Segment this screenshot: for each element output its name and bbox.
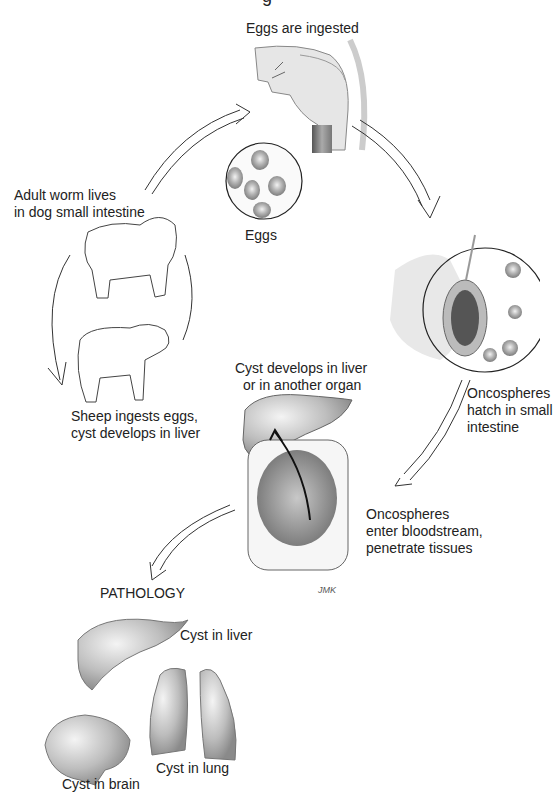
abdominal-organs-illustration [243,395,352,570]
label-line: Oncospheres [467,385,553,402]
label-oncospheres-hatch: Oncospheres hatch in small intestine [467,385,553,436]
label-line: Oncospheres [366,506,483,523]
label-cyst-liver: Cyst in liver [180,627,252,644]
title-fragment: g [262,0,272,5]
label-line: intestine [467,419,553,436]
label-line: Cyst develops in liver [235,360,367,377]
label-adult-worm: Adult worm lives in dog small intestine [14,187,145,221]
label-line: in dog small intestine [14,204,145,221]
label-line: Adult worm lives [14,187,145,204]
sheep-illustration [78,324,169,402]
label-oncospheres-enter: Oncospheres enter bloodstream, penetrate… [366,506,483,557]
label-eggs-ingested: Eggs are ingested [246,20,359,37]
label-eggs: Eggs [245,227,277,244]
head-throat-illustration [255,40,364,153]
label-cyst-lung: Cyst in lung [156,760,229,777]
label-line: enter bloodstream, [366,523,483,540]
eggs-circle [226,143,302,219]
label-line: Sheep ingests eggs, [71,408,200,425]
signature: JMK [318,582,336,599]
label-cyst-develops: Cyst develops in liver or in another org… [235,360,367,394]
label-line: cyst develops in liver [71,425,200,442]
label-cyst-brain: Cyst in brain [62,776,140,792]
intestine-circle [390,235,540,372]
label-line: or in another organ [235,377,367,394]
label-line: hatch in small [467,402,553,419]
dog-illustration [85,218,177,299]
label-sheep: Sheep ingests eggs, cyst develops in liv… [71,408,200,442]
label-line: penetrate tissues [366,540,483,557]
pathology-heading: PATHOLOGY [100,585,185,602]
